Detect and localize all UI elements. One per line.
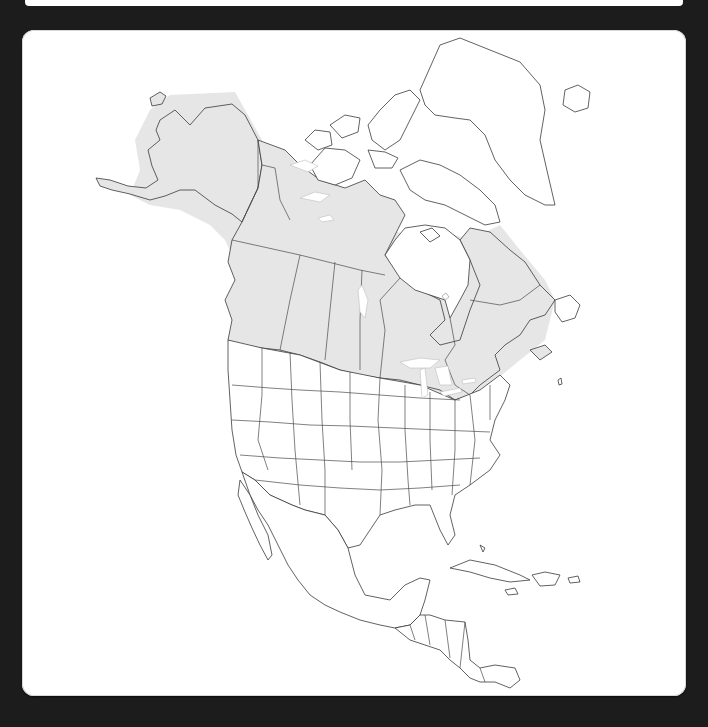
ellesmere-island bbox=[368, 90, 420, 150]
caption-strip bbox=[25, 0, 683, 6]
cuba bbox=[450, 560, 530, 582]
banks-island bbox=[305, 130, 332, 150]
jamaica bbox=[505, 588, 518, 595]
sable-island bbox=[558, 378, 562, 385]
map-card: Range map of North America bbox=[22, 30, 686, 696]
iceland bbox=[563, 85, 590, 112]
baffin-island bbox=[400, 160, 500, 225]
newfoundland bbox=[555, 295, 580, 322]
hispaniola bbox=[532, 572, 560, 586]
devon-island bbox=[368, 150, 398, 168]
central-america bbox=[395, 615, 520, 688]
bahamas bbox=[480, 545, 485, 552]
puerto-rico bbox=[568, 576, 580, 583]
north-america-map: Range map of North America bbox=[22, 30, 686, 696]
queen-elizabeth-islands bbox=[330, 115, 360, 138]
